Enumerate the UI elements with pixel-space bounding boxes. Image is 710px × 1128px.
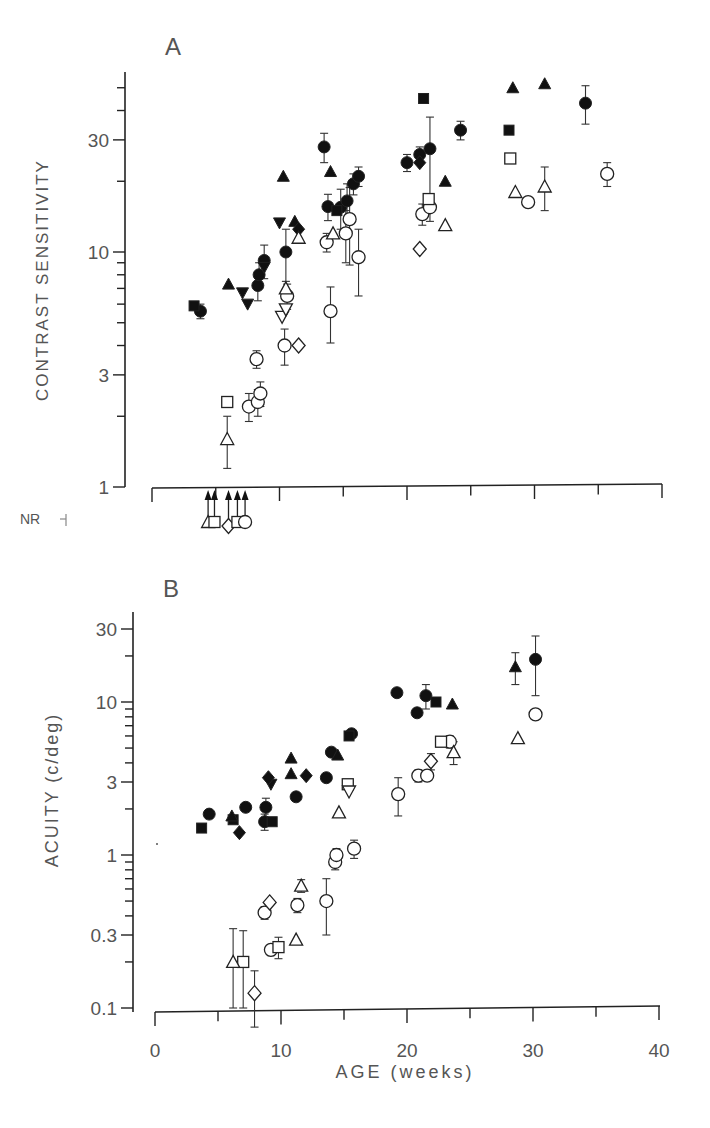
x-tick-label: 30 bbox=[522, 1040, 543, 1061]
panel-b-ylabel: ACUITY (c/deg) bbox=[42, 713, 62, 868]
data-point bbox=[343, 786, 356, 798]
data-point bbox=[424, 143, 436, 155]
y-tick-label: 10 bbox=[96, 692, 117, 713]
data-point bbox=[290, 791, 302, 803]
data-point bbox=[423, 194, 434, 205]
data-point bbox=[320, 772, 332, 784]
data-point bbox=[511, 732, 524, 744]
data-point bbox=[189, 301, 199, 311]
data-point bbox=[237, 288, 249, 299]
y-tick-label: 30 bbox=[96, 619, 117, 640]
x-tick-label: 20 bbox=[396, 1040, 417, 1061]
x-axis-label: AGE (weeks) bbox=[335, 1062, 474, 1082]
data-point bbox=[273, 942, 284, 953]
data-point bbox=[339, 227, 352, 240]
stray-dot bbox=[156, 843, 158, 845]
data-point bbox=[424, 754, 437, 769]
data-point bbox=[419, 93, 429, 103]
data-point bbox=[530, 653, 542, 665]
panel-a-ylabel: CONTRAST SENSITIVITY bbox=[33, 159, 52, 401]
data-point bbox=[431, 697, 441, 707]
data-point bbox=[439, 175, 451, 186]
data-point bbox=[539, 78, 551, 89]
y-tick-label: 1 bbox=[106, 845, 117, 866]
panel-b-axes: 0.10.3131030 010203040 bbox=[91, 612, 670, 1061]
data-point bbox=[504, 125, 514, 135]
data-point bbox=[401, 157, 413, 169]
data-point bbox=[325, 166, 337, 177]
data-point bbox=[250, 353, 263, 366]
figure: A B CONTRAST SENSITIVITY ACUITY (c/deg) … bbox=[0, 0, 710, 1128]
data-point bbox=[222, 396, 233, 407]
data-point bbox=[505, 153, 516, 164]
data-point bbox=[439, 219, 452, 231]
data-point bbox=[344, 731, 354, 741]
nr-arrows bbox=[202, 490, 252, 534]
y-tick-label: 0.1 bbox=[91, 998, 117, 1019]
data-point bbox=[420, 690, 432, 702]
y-tick-label: 1 bbox=[98, 477, 109, 498]
data-point bbox=[292, 338, 305, 353]
data-point bbox=[413, 241, 426, 256]
data-point bbox=[252, 280, 264, 292]
data-point bbox=[538, 180, 551, 192]
data-point bbox=[348, 842, 361, 855]
data-point bbox=[260, 801, 272, 813]
data-point bbox=[291, 899, 304, 912]
y-tick-label: 0.3 bbox=[91, 925, 117, 946]
data-point bbox=[330, 849, 343, 862]
x-tick-label: 10 bbox=[270, 1040, 291, 1061]
data-point bbox=[509, 186, 522, 198]
data-point bbox=[352, 251, 365, 264]
data-point bbox=[292, 231, 305, 243]
data-point bbox=[455, 124, 467, 136]
data-point bbox=[580, 97, 592, 109]
data-point bbox=[332, 206, 342, 216]
data-point bbox=[233, 826, 245, 840]
data-point bbox=[411, 707, 423, 719]
data-point bbox=[203, 808, 215, 820]
data-point bbox=[343, 213, 356, 226]
data-point bbox=[285, 768, 297, 779]
data-point bbox=[341, 195, 353, 207]
data-point bbox=[267, 817, 277, 827]
data-point bbox=[278, 339, 291, 352]
data-point bbox=[274, 218, 286, 229]
data-point bbox=[522, 196, 535, 209]
panel-b-data bbox=[156, 636, 542, 1027]
data-point bbox=[223, 278, 235, 289]
y-tick-label: 3 bbox=[98, 365, 109, 386]
data-point bbox=[318, 141, 330, 153]
data-point bbox=[285, 752, 297, 763]
data-point bbox=[239, 516, 252, 529]
y-tick-label: 3 bbox=[106, 772, 117, 793]
data-point bbox=[391, 687, 403, 699]
data-point bbox=[324, 305, 337, 318]
data-point bbox=[209, 517, 220, 528]
x-tick-label: 40 bbox=[648, 1040, 669, 1061]
data-point bbox=[332, 806, 345, 818]
data-point bbox=[320, 895, 333, 908]
x-tick-label: 0 bbox=[150, 1040, 161, 1061]
data-point bbox=[446, 698, 458, 709]
data-point bbox=[300, 769, 312, 783]
data-point bbox=[221, 433, 234, 445]
data-point bbox=[290, 933, 303, 945]
y-tick-label: 30 bbox=[88, 130, 109, 151]
data-point bbox=[601, 167, 614, 180]
data-point bbox=[436, 736, 447, 747]
nr-label: NR bbox=[20, 511, 40, 527]
data-point bbox=[529, 708, 542, 721]
data-point bbox=[240, 801, 252, 813]
data-point bbox=[421, 769, 434, 782]
data-point bbox=[277, 170, 289, 181]
data-point bbox=[509, 661, 521, 672]
data-point bbox=[280, 246, 292, 258]
data-point bbox=[248, 986, 261, 1001]
panel-b-letter: B bbox=[163, 575, 179, 602]
data-point bbox=[353, 170, 365, 182]
panel-a-data bbox=[189, 78, 614, 469]
data-point bbox=[197, 823, 207, 833]
data-point bbox=[295, 879, 308, 891]
data-point bbox=[507, 82, 519, 93]
